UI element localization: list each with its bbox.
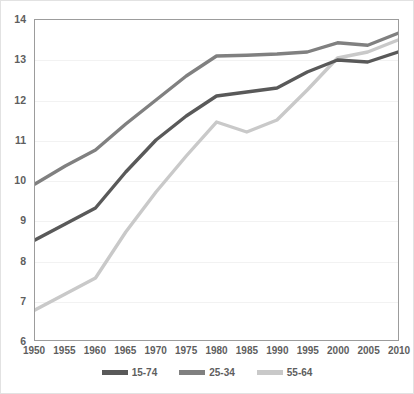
legend-label: 15-74 — [132, 367, 158, 378]
x-tick-label: 1990 — [266, 345, 288, 356]
chart-legend: 15-7425-3455-64 — [1, 367, 413, 378]
x-tick-label: 2010 — [388, 345, 410, 356]
legend-swatch-icon — [179, 370, 205, 375]
y-axis: 14131211109876 — [1, 1, 31, 394]
y-tick-label: 7 — [20, 295, 26, 307]
legend-label: 55-64 — [287, 367, 313, 378]
x-tick-label: 1995 — [297, 345, 319, 356]
legend-item-15-74[interactable]: 15-74 — [102, 367, 158, 378]
x-tick-label: 2000 — [327, 345, 349, 356]
x-tick-label: 2005 — [357, 345, 379, 356]
legend-item-25-34[interactable]: 25-34 — [179, 367, 235, 378]
series-container — [35, 20, 398, 340]
y-tick-label: 14 — [14, 13, 26, 25]
x-tick-label: 1985 — [236, 345, 258, 356]
line-chart-figure: 14131211109876 1950195519601965197019751… — [0, 0, 414, 394]
x-tick-label: 1960 — [84, 345, 106, 356]
legend-swatch-icon — [102, 370, 128, 375]
y-tick-label: 8 — [20, 255, 26, 267]
x-tick-label: 1965 — [114, 345, 136, 356]
legend-item-55-64[interactable]: 55-64 — [257, 367, 313, 378]
x-tick-label: 1950 — [23, 345, 45, 356]
y-tick-label: 10 — [14, 174, 26, 186]
plot-area — [34, 19, 399, 341]
y-tick-label: 11 — [15, 134, 26, 146]
x-tick-label: 1980 — [205, 345, 227, 356]
x-tick-label: 1955 — [53, 345, 75, 356]
y-tick-label: 12 — [14, 94, 26, 106]
y-tick-label: 9 — [20, 214, 26, 226]
y-tick-label: 13 — [14, 53, 26, 65]
x-tick-label: 1975 — [175, 345, 197, 356]
x-tick-label: 1970 — [145, 345, 167, 356]
legend-swatch-icon — [257, 370, 283, 375]
series-line-15-74 — [35, 52, 398, 240]
x-axis: 1950195519601965197019751980198519901995… — [34, 345, 399, 361]
legend-label: 25-34 — [209, 367, 235, 378]
series-line-55-64 — [35, 40, 398, 310]
